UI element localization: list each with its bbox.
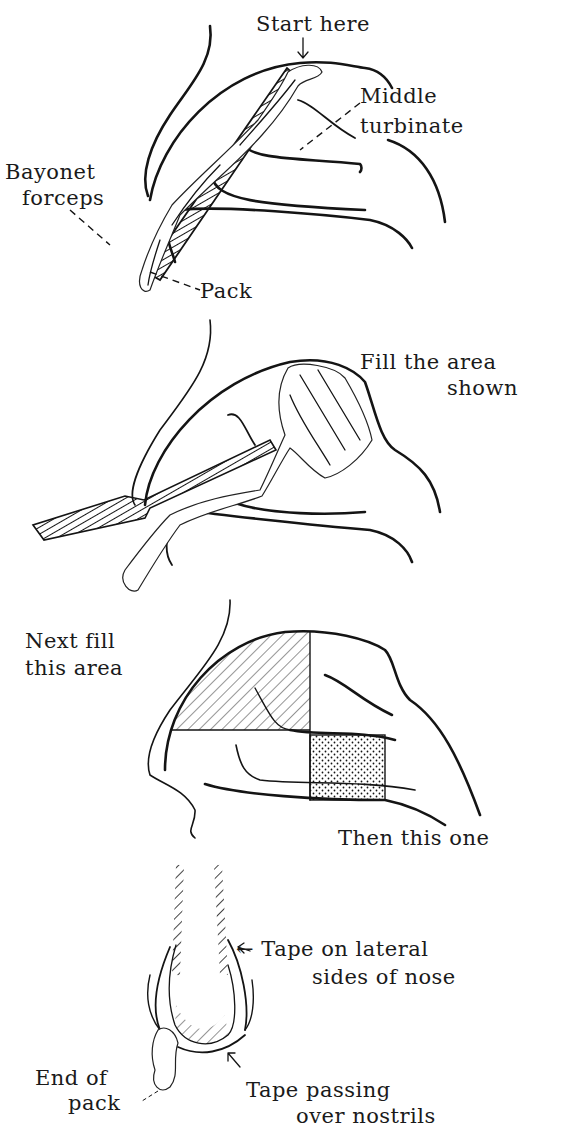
label-next-fill-line2: this area — [25, 656, 123, 680]
panel-fill-sequence: Next fill this area Then this one — [0, 600, 564, 865]
label-tape-lateral-line2: sides of nose — [312, 965, 456, 989]
label-fill-area-line2: shown — [447, 376, 518, 400]
nasal-cavity-drawing-1 — [0, 0, 564, 300]
label-end-of-pack-line2: pack — [68, 1091, 120, 1115]
nasal-cavity-drawing-2 — [0, 300, 564, 600]
label-tape-passing-line2: over nostrils — [296, 1104, 436, 1128]
label-then-this-one: Then this one — [338, 826, 489, 850]
label-start-here: Start here — [256, 12, 370, 36]
label-next-fill-line1: Next fill — [25, 629, 115, 653]
label-middle-turbinate-line2: turbinate — [360, 114, 464, 138]
label-middle-turbinate-line1: Middle — [360, 84, 437, 108]
label-tape-lateral-line1: ← Tape on lateral — [236, 937, 428, 961]
label-end-of-pack-line1: End of — [35, 1066, 107, 1090]
label-bayonet-forceps-line1: Bayonet — [5, 160, 95, 184]
label-tape-passing-line1: Tape passing — [246, 1078, 391, 1102]
panel-forceps-insertion: Start here Middle turbinate Bayonet forc… — [0, 0, 564, 300]
label-bayonet-forceps-line2: forceps — [22, 186, 104, 210]
label-fill-area-line1: Fill the area — [360, 350, 496, 374]
panel-fill-area: Fill the area shown — [0, 300, 564, 600]
panel-tape-anterior-view: ← Tape on lateral sides of nose End of p… — [0, 865, 564, 1132]
